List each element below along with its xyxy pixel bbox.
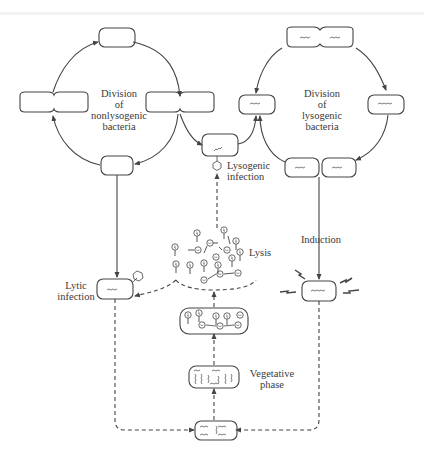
- phage-head-icon: [213, 161, 221, 171]
- bacterium-bottom: [101, 156, 133, 175]
- dashed-pathways: [115, 174, 319, 430]
- label-lysogenic-infection: Lysogenic infection: [227, 160, 287, 182]
- assembly-bacterium: [180, 308, 248, 334]
- label-lysis: Lysis: [249, 247, 289, 258]
- label-lysogenic-cycle: Division of lysogenic bacteria: [292, 88, 352, 132]
- diagram-canvas: [0, 0, 424, 450]
- label-lytic-infection: Lytic infection: [55, 280, 97, 302]
- lytic-infection: [97, 271, 143, 299]
- lytic-infection-bacterium: [97, 279, 133, 299]
- lysogenic-dividing-bacterium-top: [287, 27, 353, 47]
- lysogenic-bacterium-left: [239, 95, 275, 114]
- radiation-icon: [295, 270, 305, 279]
- dividing-bacterium-right: [146, 92, 214, 112]
- radiation-icon: [340, 278, 352, 283]
- early-infected-bacterium: [195, 421, 237, 440]
- dividing-bacterium-left: [20, 92, 88, 112]
- lysogenic-bacterium-right: [368, 95, 404, 114]
- bacterium-top: [99, 28, 135, 47]
- phage-head-icon: [133, 271, 143, 281]
- radiation-icon: [280, 291, 296, 293]
- label-nonlysogenic-cycle: Division of nonlysogenic bacteria: [86, 88, 152, 132]
- released-phages: [172, 227, 243, 283]
- lysogenic-infection-bacterium: [202, 134, 238, 156]
- label-vegetative-phase: Vegetative phase: [244, 368, 300, 390]
- phage-life-cycle-diagram: Division of nonlysogenic bacteria Divisi…: [0, 0, 424, 450]
- label-induction: Induction: [296, 234, 346, 245]
- vegetative-bacterium: [189, 366, 239, 388]
- radiation-icon: [343, 290, 359, 293]
